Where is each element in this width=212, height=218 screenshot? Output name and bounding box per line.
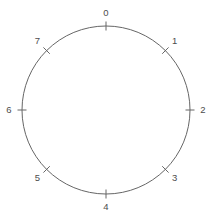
tick-label-2: 2 <box>200 104 205 115</box>
tick-label-6: 6 <box>6 104 11 115</box>
circle-diagram-canvas: 01234567 <box>0 0 212 218</box>
tick-labels-group: 01234567 <box>6 7 205 212</box>
tick-label-5: 5 <box>35 172 40 183</box>
tick-label-1: 1 <box>172 35 177 46</box>
tick-label-3: 3 <box>172 172 177 183</box>
tick-label-4: 4 <box>103 201 108 212</box>
tick-label-7: 7 <box>35 35 40 46</box>
tick-label-0: 0 <box>103 7 108 18</box>
circle-diagram-figure: 01234567 <box>0 0 212 218</box>
tick-marks-group <box>18 22 195 199</box>
